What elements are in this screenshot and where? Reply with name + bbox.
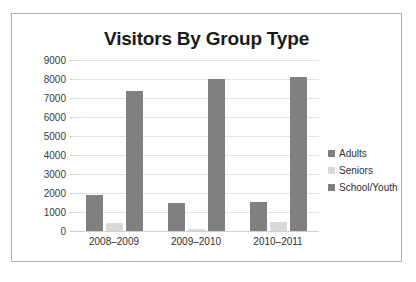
y-axis-tick-mark: [70, 212, 73, 213]
x-axis-tick-label: 2008–2009: [89, 236, 139, 247]
bar[interactable]: [168, 203, 185, 232]
bar-group: [73, 60, 155, 231]
y-axis-tick-label: 7000: [44, 93, 66, 104]
bar[interactable]: [270, 222, 287, 231]
y-axis-tick-mark: [70, 155, 73, 156]
y-axis-tick-label: 3000: [44, 169, 66, 180]
y-axis-tick-label: 2000: [44, 188, 66, 199]
chart-title: Visitors By Group Type: [12, 28, 401, 50]
bar[interactable]: [126, 91, 143, 231]
bar[interactable]: [188, 229, 205, 231]
chart-legend: AdultsSeniorsSchool/Youth: [328, 145, 416, 196]
bar-series-container: [73, 60, 319, 231]
y-axis-tick-label: 9000: [44, 55, 66, 66]
y-axis-tick-mark: [70, 79, 73, 80]
y-axis-tick-label: 5000: [44, 131, 66, 142]
chart-frame: Visitors By Group Type 01000200030004000…: [11, 13, 402, 262]
y-axis-tick-label: 6000: [44, 112, 66, 123]
legend-item[interactable]: School/Youth: [328, 179, 416, 196]
y-axis-tick-label: 1000: [44, 207, 66, 218]
bar[interactable]: [106, 223, 123, 231]
y-axis-tick-label: 4000: [44, 150, 66, 161]
legend-item-label: Seniors: [339, 165, 373, 176]
y-axis-tick-label: 0: [60, 226, 66, 237]
y-axis-tick-mark: [70, 60, 73, 61]
bar-group: [237, 60, 319, 231]
bar[interactable]: [290, 77, 307, 231]
legend-swatch-icon: [328, 184, 335, 191]
y-axis-tick-mark: [70, 136, 73, 137]
legend-swatch-icon: [328, 150, 335, 157]
bar[interactable]: [208, 79, 225, 231]
gridline: [73, 231, 319, 232]
plot-area: [73, 60, 319, 231]
x-axis-tick-label: 2009–2010: [171, 236, 221, 247]
x-axis: 2008–20092009–20102010–2011: [73, 236, 319, 252]
y-axis-tick-mark: [70, 117, 73, 118]
y-axis-tick-mark: [70, 98, 73, 99]
y-axis: 0100020003000400050006000700080009000: [26, 60, 70, 231]
y-axis-tick-mark: [70, 231, 73, 232]
legend-item-label: School/Youth: [339, 182, 398, 193]
y-axis-tick-mark: [70, 193, 73, 194]
legend-swatch-icon: [328, 167, 335, 174]
y-axis-tick-mark: [70, 174, 73, 175]
legend-item-label: Adults: [339, 148, 367, 159]
bar[interactable]: [86, 195, 103, 231]
x-axis-tick-label: 2010–2011: [253, 236, 302, 247]
legend-item[interactable]: Adults: [328, 145, 416, 162]
bar[interactable]: [250, 202, 267, 231]
bar-group: [155, 60, 237, 231]
y-axis-tick-label: 8000: [44, 74, 66, 85]
legend-item[interactable]: Seniors: [328, 162, 416, 179]
